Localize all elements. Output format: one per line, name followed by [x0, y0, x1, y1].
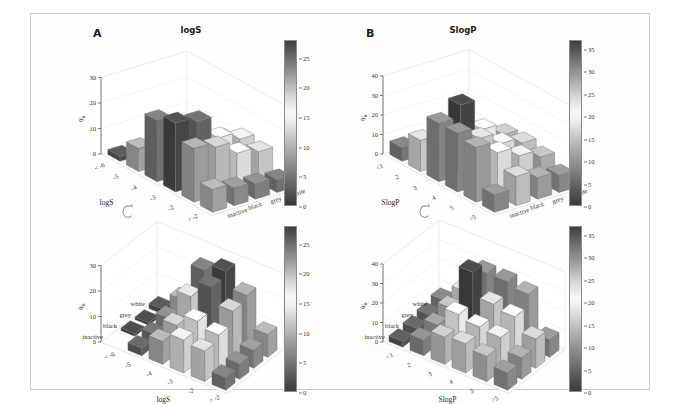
y-tick-label: white [413, 300, 427, 307]
z-tick-label: 40 [372, 260, 379, 267]
colorbar-tick-label: 20 [299, 84, 310, 91]
colorbar-tick-label: 25 [584, 276, 595, 283]
colorbar-tick-label: 15 [584, 135, 595, 142]
y-tick-label: black [103, 322, 117, 329]
plot3d-a-top[interactable]: 0102030%< -6-5-4-3-2> -2logSwhitegreybla… [71, 36, 281, 196]
y-tick-label: grey [401, 311, 413, 318]
x-tick-label: > -2 [208, 393, 221, 404]
z-tick-label: 40 [372, 72, 379, 79]
colorbar-tick-label: 20 [584, 299, 595, 306]
colorbar-ticks: 05101520253035 [584, 226, 610, 392]
colorbar-tick-label: 10 [299, 143, 310, 150]
colorbar-tick-label: 5 [299, 359, 306, 366]
colorbar-gradient [569, 226, 582, 392]
bar3d[interactable] [191, 338, 214, 382]
bar3d[interactable] [431, 324, 454, 364]
colorbar-tick-label: 10 [584, 158, 595, 165]
colorbar-tick-label: 5 [299, 173, 306, 180]
colorbar-tick-label: 25 [584, 90, 595, 97]
y-tick-label: inactive [82, 333, 103, 340]
bar3d[interactable] [149, 329, 172, 365]
colorbar-tick-label: 0 [299, 389, 306, 396]
z-tick-label: 10 [372, 319, 379, 326]
x-tick-label: -2 [186, 386, 194, 395]
colorbar-tick-label: 25 [299, 54, 310, 61]
z-tick-label: 20 [90, 287, 97, 294]
colorbar-tick-label: 30 [584, 254, 595, 261]
panel-title-b-top: SlogP [403, 25, 523, 35]
panel-a-top: A logS 0102030%< -6-5-4-3-2> -2logSwhite… [31, 14, 341, 204]
colorbar-tick-label: 5 [584, 180, 591, 187]
z-tick-label: 30 [90, 74, 97, 81]
bar3d[interactable] [170, 327, 193, 373]
z-axis-label: % [78, 115, 87, 121]
panel-a-bottom: 0102030%< -6-5-4-3-2> -2logSwhitegreybla… [31, 204, 341, 391]
colorbar-a-top: 0510152025 [284, 40, 324, 206]
colorbar-gradient [284, 40, 297, 206]
colorbar-tick-label: 35 [584, 45, 595, 52]
x-axis-label: SlogP [439, 395, 457, 404]
x-tick-label: >5 [489, 394, 498, 403]
plot3d-a-bottom[interactable]: 0102030%< -6-5-4-3-2> -2logSwhitegreybla… [71, 222, 281, 382]
colorbar-tick-label: 35 [584, 231, 595, 238]
colorbar-ticks: 05101520253035 [584, 40, 610, 206]
z-tick-label: 0 [93, 150, 96, 157]
plot3d-b-bottom[interactable]: 010203040%<12345>5SlogPwhitegreyblackina… [353, 222, 563, 382]
panel-title-a-top: logS [131, 25, 251, 35]
colorbar-tick-label: 25 [299, 240, 310, 247]
plot-canvas [353, 222, 563, 382]
colorbar-tick-label: 15 [299, 300, 310, 307]
colorbar-tick-label: 20 [584, 113, 595, 120]
z-tick-label: 20 [90, 99, 97, 106]
colorbar-b-bottom: 05101520253035 [569, 226, 609, 392]
colorbar-ticks: 0510152025 [299, 40, 325, 206]
z-tick-label: 10 [372, 131, 379, 138]
x-tick-label: 5 [468, 386, 474, 394]
panel-b-top: B SlogP 010203040%<12345>5SlogPwhitegrey… [341, 14, 651, 204]
z-tick-label: 30 [90, 262, 97, 269]
z-tick-label: 10 [90, 313, 97, 320]
colorbar-tick-label: 15 [584, 321, 595, 328]
bar3d[interactable] [473, 343, 496, 381]
plot-canvas [71, 222, 281, 382]
figure-frame: A logS 0102030%< -6-5-4-3-2> -2logSwhite… [30, 13, 650, 390]
plot-canvas [71, 36, 281, 196]
colorbar-b-top: 05101520253035 [569, 40, 609, 206]
z-tick-label: 20 [372, 299, 379, 306]
colorbar-tick-label: 10 [584, 344, 595, 351]
bar3d[interactable] [494, 360, 517, 390]
z-tick-label: 30 [372, 92, 379, 99]
x-axis-label: logS [157, 395, 171, 404]
colorbar-gradient [569, 40, 582, 206]
colorbar-tick-label: 20 [299, 270, 310, 277]
colorbar-tick-label: 10 [299, 329, 310, 336]
colorbar-tick-label: 0 [584, 389, 591, 396]
plot3d-b-top[interactable]: 010203040%<12345>5SlogPwhitegreyblackina… [353, 36, 563, 196]
colorbar-tick-label: 15 [299, 114, 310, 121]
z-axis-label: % [360, 114, 369, 120]
z-axis-label: % [78, 303, 87, 309]
y-tick-label: grey [119, 311, 131, 318]
colorbar-gradient [284, 226, 297, 392]
panel-b-bottom: 010203040%<12345>5SlogPwhitegreyblackina… [341, 204, 651, 391]
y-tick-label: white [131, 300, 145, 307]
colorbar-a-bottom: 0510152025 [284, 226, 324, 392]
z-axis-label: % [360, 302, 369, 308]
bar3d[interactable] [452, 331, 475, 373]
plot-canvas [353, 36, 563, 196]
z-tick-label: 10 [90, 125, 97, 132]
z-tick-label: 0 [375, 150, 378, 157]
colorbar-tick-label: 30 [584, 68, 595, 75]
colorbar-ticks: 0510152025 [299, 226, 325, 392]
y-tick-label: inactive [364, 333, 385, 340]
z-tick-label: 30 [372, 280, 379, 287]
colorbar-tick-label: 5 [584, 366, 591, 373]
z-tick-label: 20 [372, 111, 379, 118]
y-tick-label: black [385, 322, 399, 329]
